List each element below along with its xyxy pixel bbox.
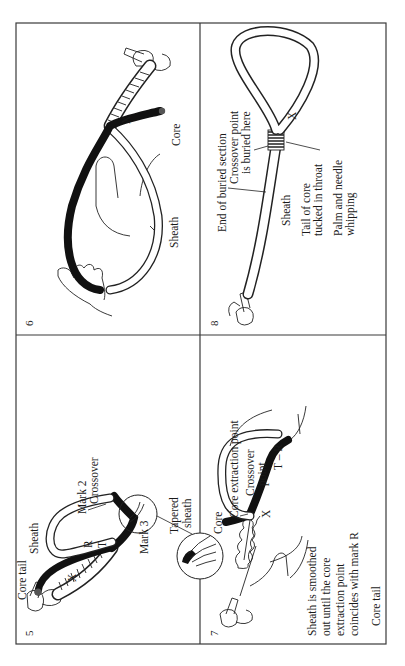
label-x: X xyxy=(120,115,132,124)
splice-diagram: 5 xyxy=(0,0,405,666)
label-end-of-buried-section: End of buried section xyxy=(216,133,228,232)
label-tail-1: Tail of core xyxy=(300,183,312,236)
caption-line-1: Sheath is smoothed xyxy=(306,546,318,636)
label-sheath: Sheath xyxy=(280,194,292,226)
panel-number: 6 xyxy=(23,320,35,326)
panel-number: 5 xyxy=(23,630,35,636)
rotated-page: 5 xyxy=(16,23,386,644)
label-x: X xyxy=(286,111,298,120)
label-sheath-2: sheath xyxy=(181,498,193,528)
label-crossover-buried-2: is buried here xyxy=(240,111,252,174)
label-tail-2: tucked in throat xyxy=(312,163,324,236)
core-tail-end xyxy=(35,589,42,596)
caption-line-4: coincides with mark R xyxy=(348,532,360,636)
caption-line-3: extraction point xyxy=(334,563,347,636)
panel-6: 6 xyxy=(23,48,182,326)
label-x: X xyxy=(260,509,272,518)
bunched-sheath xyxy=(235,516,260,596)
panel-number: 8 xyxy=(208,320,220,326)
label-sheath: Sheath xyxy=(28,522,40,554)
hand-icon xyxy=(250,536,308,586)
label-t-r: T – R xyxy=(272,444,284,470)
tapered-sheath-magnifier xyxy=(177,533,223,579)
label-mark3: Mark 3 xyxy=(138,520,150,554)
label-t: T xyxy=(96,541,108,548)
label-core-tail: Core tail xyxy=(16,560,28,600)
label-x: X xyxy=(66,573,78,582)
label-core-extraction-point: Core extraction point xyxy=(228,419,241,518)
label-core: Core xyxy=(170,124,182,146)
panel-8: 8 End of buried section Crossover point … xyxy=(208,31,357,326)
label-point: point xyxy=(256,462,269,486)
label-core: Core xyxy=(212,512,224,534)
panel-number: 7 xyxy=(208,630,220,636)
label-whipping-2: whipping xyxy=(344,192,357,236)
label-whipping-1: Palm and needle xyxy=(332,160,344,236)
label-sheath: Sheath xyxy=(168,216,180,248)
label-r: R xyxy=(82,540,94,548)
panel-7: 7 Core Core extraction poin xyxy=(208,406,360,636)
caption-line-2: out until the core xyxy=(320,558,332,636)
label-crossover: Crossover xyxy=(88,457,100,504)
label-core-tail: Core tail xyxy=(370,586,382,626)
label-crossover: Crossover xyxy=(244,449,256,496)
label-tapered: Tapered xyxy=(168,497,181,534)
label-mark2: Mark 2 xyxy=(76,480,88,514)
fid-icon xyxy=(220,598,252,627)
